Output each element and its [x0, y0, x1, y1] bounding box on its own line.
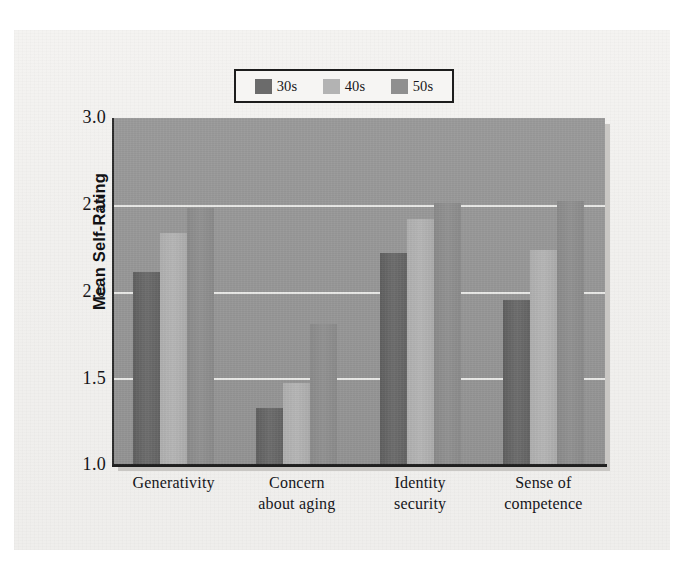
y-tick-3-0: 3.0 — [62, 107, 106, 128]
bar-30s-identity-security — [380, 253, 407, 465]
legend-item-50s: 50s — [391, 78, 433, 95]
bar-40s-generativity — [160, 233, 187, 465]
bar-30s-sense-of-competence — [503, 300, 530, 465]
bar-50s-identity-security — [434, 203, 461, 465]
y-axis-line — [112, 118, 114, 467]
bar-chart-figure: 30s 40s 50s Mean Self-Rating 3.0 2.5 2.0… — [0, 0, 684, 573]
y-tick-2-0: 2.0 — [62, 281, 106, 302]
legend-label-30s: 30s — [277, 78, 297, 95]
bar-40s-sense-of-competence — [530, 250, 557, 465]
bar-30s-concern-about-aging — [256, 408, 283, 465]
legend-swatch-50s — [391, 79, 408, 94]
y-tick-2-5: 2.5 — [62, 194, 106, 215]
legend-label-40s: 40s — [345, 78, 365, 95]
x-axis-labels: GenerativityConcernabout agingIdentityse… — [112, 472, 607, 534]
x-axis-line — [112, 464, 607, 467]
chart-legend: 30s 40s 50s — [234, 69, 454, 103]
bar-50s-generativity — [187, 208, 214, 465]
bar-50s-concern-about-aging — [310, 324, 337, 465]
x-label-sense-of-competence: Sense ofcompetence — [470, 472, 617, 514]
legend-item-30s: 30s — [255, 78, 297, 95]
bar-40s-identity-security — [407, 219, 434, 465]
gridline-2-5 — [112, 205, 605, 207]
legend-label-50s: 50s — [413, 78, 433, 95]
bar-30s-generativity — [133, 272, 160, 465]
y-axis: Mean Self-Rating 3.0 2.5 2.0 1.5 1.0 — [52, 0, 106, 573]
bar-50s-sense-of-competence — [557, 201, 584, 465]
x-label-line: Sense of — [470, 472, 617, 493]
legend-swatch-40s — [323, 79, 340, 94]
legend-item-40s: 40s — [323, 78, 365, 95]
bar-40s-concern-about-aging — [283, 383, 310, 465]
plot-area — [112, 118, 605, 465]
y-axis-title: Mean Self-Rating — [90, 147, 109, 337]
x-label-line: competence — [470, 493, 617, 514]
legend-swatch-30s — [255, 79, 272, 94]
y-tick-1-5: 1.5 — [62, 368, 106, 389]
scanned-page: 30s 40s 50s Mean Self-Rating 3.0 2.5 2.0… — [0, 0, 684, 573]
